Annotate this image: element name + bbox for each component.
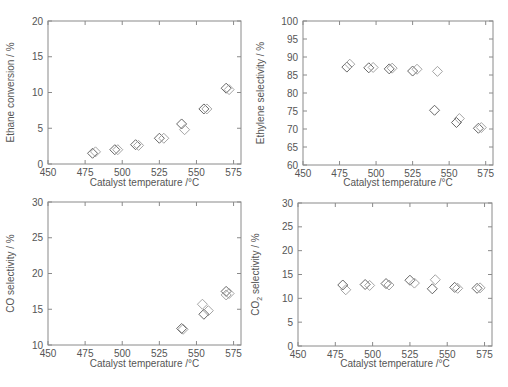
- plot-frame: [303, 21, 493, 165]
- y-tick-label: 30: [282, 198, 294, 209]
- data-point-run-2: [113, 145, 123, 155]
- data-point-run-2: [432, 66, 442, 76]
- y-tick-label: 70: [287, 124, 299, 135]
- panel-ethylene-selectivity: 4504755005255505756065707580859095100Cat…: [255, 16, 494, 189]
- y-tick-label: 20: [32, 16, 44, 27]
- plot-frame: [298, 203, 492, 346]
- y-tick-label: 10: [32, 87, 44, 98]
- y-tick-label: 0: [287, 341, 293, 352]
- data-point-run-2: [430, 275, 440, 285]
- y-axis-label: CO selectivity / %: [5, 234, 16, 312]
- data-point-run-1: [110, 145, 120, 155]
- y-tick-label: 30: [32, 197, 44, 208]
- y-tick-label: 15: [282, 269, 294, 280]
- x-axis-label: Catalyst temperature /°C: [90, 177, 200, 188]
- y-tick-label: 0: [37, 159, 43, 170]
- y-tick-label: 10: [32, 340, 44, 351]
- data-point-run-1: [427, 284, 437, 294]
- y-tick-label: 65: [287, 142, 299, 153]
- x-tick-label: 575: [225, 348, 242, 359]
- y-tick-label: 75: [287, 106, 299, 117]
- y-tick-label: 20: [282, 245, 294, 256]
- y-tick-label: 5: [37, 123, 43, 134]
- y-tick-label: 100: [281, 16, 298, 27]
- x-axis-label: Catalyst temperature /°C: [343, 177, 453, 188]
- y-axis-label-rest: selectivity / %: [250, 233, 261, 296]
- data-point-run-2: [202, 104, 212, 114]
- x-tick-label: 575: [477, 168, 494, 179]
- plot-frame: [48, 21, 241, 164]
- data-point-run-1: [408, 66, 418, 76]
- y-axis-label: Ethane conversion / %: [5, 42, 16, 142]
- x-tick-label: 575: [225, 167, 242, 178]
- plot-frame: [48, 202, 241, 345]
- data-point-run-2: [412, 64, 422, 74]
- y-tick-label: 15: [32, 51, 44, 62]
- panel-ethane-conversion: 45047550052555057505101520Catalyst tempe…: [5, 16, 242, 189]
- figure: 45047550052555057505101520Catalyst tempe…: [0, 0, 508, 387]
- y-tick-label: 80: [287, 88, 299, 99]
- x-axis-label: Catalyst temperature /°C: [90, 358, 200, 369]
- panel-co2-selectivity: 450475500525550575051015202530Catalyst t…: [250, 198, 493, 370]
- data-point-run-1: [342, 62, 352, 72]
- y-tick-label: 85: [287, 70, 299, 81]
- y-tick-label: 20: [32, 268, 44, 279]
- y-tick-label: 25: [32, 232, 44, 243]
- data-point-run-1: [199, 104, 209, 114]
- y-axis-label: Ethylene selectivity / %: [255, 42, 266, 144]
- data-point-run-1: [430, 105, 440, 115]
- y-tick-label: 5: [287, 317, 293, 328]
- y-tick-label: 60: [287, 160, 299, 171]
- y-tick-label: 25: [282, 221, 294, 232]
- y-tick-label: 10: [282, 293, 294, 304]
- panel-co-selectivity: 4504755005255505751015202530Catalyst tem…: [5, 197, 242, 370]
- y-axis-label-main: CO: [250, 300, 261, 315]
- y-axis-label: CO2 selectivity / %: [250, 233, 263, 315]
- y-tick-label: 90: [287, 52, 299, 63]
- y-tick-label: 95: [287, 34, 299, 45]
- x-axis-label: Catalyst temperature /°C: [340, 358, 450, 369]
- data-point-run-2: [345, 59, 355, 69]
- x-tick-label: 575: [476, 349, 493, 360]
- y-tick-label: 15: [32, 304, 44, 315]
